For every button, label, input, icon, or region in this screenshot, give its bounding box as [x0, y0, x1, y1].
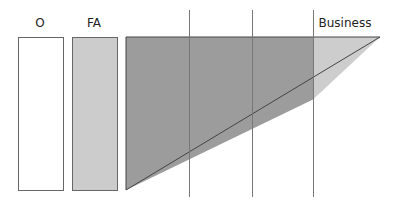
diagram-canvas: O FA Business — [0, 0, 396, 205]
triangle-light-region — [313, 37, 380, 99]
label-o: O — [35, 16, 44, 30]
label-fa: FA — [87, 16, 102, 30]
o-box — [19, 38, 64, 191]
triangle-dark-region — [126, 37, 313, 190]
label-business: Business — [319, 16, 372, 30]
fa-box — [73, 38, 118, 191]
